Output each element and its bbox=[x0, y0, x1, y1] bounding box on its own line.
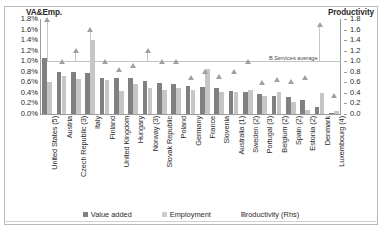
productivity-marker bbox=[173, 59, 179, 64]
y-tick-mark-left bbox=[35, 40, 38, 41]
legend-label: Employment bbox=[170, 210, 211, 219]
category-label: Poland bbox=[179, 116, 188, 138]
y-tick-mark-right bbox=[344, 103, 347, 104]
category-label: Sweden (2) bbox=[251, 116, 260, 153]
productivity-marker bbox=[274, 77, 280, 82]
category-label: Czech Republic (3) bbox=[79, 116, 88, 177]
productivity-marker bbox=[102, 59, 108, 64]
category-label: Portugal (3) bbox=[265, 116, 274, 153]
productivity-marker bbox=[130, 63, 136, 68]
productivity-stem bbox=[319, 24, 320, 61]
bar-employment bbox=[205, 69, 210, 114]
productivity-marker bbox=[202, 69, 208, 74]
y-tick-label-right: 0.4 bbox=[350, 89, 361, 97]
y-tick-mark-right bbox=[344, 114, 347, 115]
legend-item-productivity: Productivity (Rhs) bbox=[241, 210, 299, 219]
series-layer bbox=[40, 19, 341, 114]
bar-employment bbox=[191, 90, 196, 114]
chart-legend: Value added Employment Productivity (Rhs… bbox=[4, 207, 378, 221]
bar-employment bbox=[305, 110, 310, 114]
legend-divider bbox=[4, 221, 378, 222]
category-axis-labels: United States (5)AustriaCzech Republic (… bbox=[40, 116, 341, 206]
y-tick-label-left: 0.4% bbox=[10, 89, 38, 97]
y-tick-label-left: 1.8% bbox=[10, 15, 38, 23]
bar-employment bbox=[262, 96, 267, 114]
productivity-marker bbox=[317, 22, 323, 27]
y-tick-mark-left bbox=[35, 114, 38, 115]
productivity-marker bbox=[44, 17, 50, 22]
category-label: United States (5) bbox=[50, 116, 59, 170]
bar-employment bbox=[47, 82, 52, 114]
y-tick-label-left: 0.8% bbox=[10, 68, 38, 76]
bar-employment bbox=[105, 80, 110, 114]
plot-area: B.Services average bbox=[40, 19, 341, 114]
y-tick-label-left: 1.6% bbox=[10, 26, 38, 34]
category-label: Luxembourg (4) bbox=[337, 116, 346, 167]
productivity-marker bbox=[302, 75, 308, 80]
right-axis: 1.81.61.41.21.00.80.60.40.20.0 bbox=[344, 19, 374, 114]
y-tick-label-left: 1.2% bbox=[10, 47, 38, 55]
productivity-marker bbox=[288, 79, 294, 84]
category-label: Austria bbox=[65, 116, 74, 138]
category-label: United Kingdom bbox=[122, 116, 131, 167]
y-tick-label-left: 0.0% bbox=[10, 110, 38, 118]
productivity-marker bbox=[231, 69, 237, 74]
category-label: Denmark bbox=[323, 116, 332, 145]
category-label: Belgium (2) bbox=[280, 116, 289, 153]
y-tick-label-right: 1.2 bbox=[350, 47, 361, 55]
category-label: Estonia (2) bbox=[308, 116, 317, 151]
productivity-marker bbox=[73, 48, 79, 53]
y-tick-mark-left bbox=[35, 30, 38, 31]
y-tick-label-left: 0.2% bbox=[10, 99, 38, 107]
category-label: Finland bbox=[108, 116, 117, 140]
y-tick-label-left: 1.0% bbox=[10, 57, 38, 65]
legend-label: Value added bbox=[91, 210, 132, 219]
productivity-stem bbox=[47, 19, 48, 61]
y-tick-mark-left bbox=[35, 61, 38, 62]
y-tick-label-right: 1.8 bbox=[350, 15, 361, 23]
productivity-chart: VA&Emp. Productivity 1.8%1.6%1.4%1.2%1.0… bbox=[0, 0, 384, 231]
bar-employment bbox=[291, 102, 296, 114]
y-tick-mark-left bbox=[35, 72, 38, 73]
bar-employment bbox=[334, 111, 339, 114]
legend-label: Productivity (Rhs) bbox=[241, 210, 299, 219]
productivity-marker bbox=[259, 80, 265, 85]
productivity-marker bbox=[116, 67, 122, 72]
category-label: Italy bbox=[93, 116, 102, 129]
bar-employment bbox=[320, 93, 325, 114]
y-tick-mark-right bbox=[344, 93, 347, 94]
category-label: Spain (2) bbox=[294, 116, 303, 145]
category-label: Norway (3) bbox=[151, 116, 160, 151]
bar-employment bbox=[148, 88, 153, 114]
y-tick-mark-right bbox=[344, 72, 347, 73]
bar-employment bbox=[176, 88, 181, 114]
bar-employment bbox=[119, 91, 124, 114]
y-tick-mark-right bbox=[344, 19, 347, 20]
y-tick-mark-left bbox=[35, 51, 38, 52]
triangle-marker-icon bbox=[241, 212, 247, 217]
productivity-marker bbox=[245, 59, 251, 64]
bar-employment bbox=[248, 90, 253, 114]
category-label: France bbox=[208, 116, 217, 138]
y-tick-mark-left bbox=[35, 82, 38, 83]
square-swatch-dark-icon bbox=[83, 212, 88, 217]
productivity-marker bbox=[331, 93, 337, 98]
category-label: Slovak Republic bbox=[165, 116, 174, 168]
y-tick-label-right: 0.0 bbox=[350, 110, 361, 118]
productivity-marker bbox=[216, 74, 222, 79]
y-tick-mark-right bbox=[344, 61, 347, 62]
y-tick-label-left: 0.6% bbox=[10, 78, 38, 86]
bar-employment bbox=[90, 40, 95, 114]
bar-employment bbox=[76, 79, 81, 114]
bar-employment bbox=[62, 76, 67, 114]
bar-employment bbox=[162, 90, 167, 114]
y-tick-mark-left bbox=[35, 93, 38, 94]
y-tick-mark-left bbox=[35, 103, 38, 104]
y-tick-mark-right bbox=[344, 40, 347, 41]
productivity-marker bbox=[188, 75, 194, 80]
y-tick-label-right: 0.6 bbox=[350, 78, 361, 86]
y-tick-label-right: 1.6 bbox=[350, 26, 361, 34]
category-label: Hungary bbox=[136, 116, 145, 143]
y-tick-mark-right bbox=[344, 51, 347, 52]
y-tick-mark-right bbox=[344, 82, 347, 83]
